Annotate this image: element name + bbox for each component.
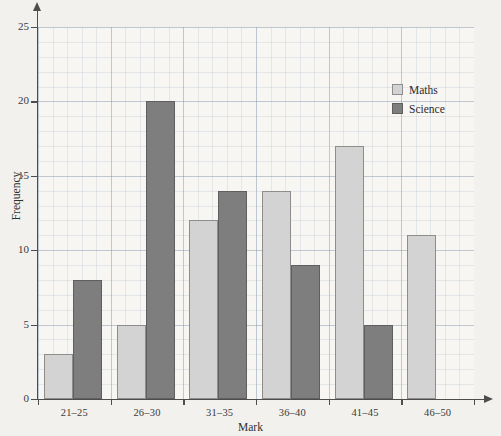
bar-science-36-40	[291, 265, 320, 399]
x-tick-mark	[183, 399, 184, 405]
x-tick-mark	[401, 399, 402, 405]
bar-science-31-35	[218, 191, 247, 399]
x-tick-mark	[474, 399, 475, 405]
x-category-label: 41–45	[329, 407, 401, 418]
y-axis-arrow-icon	[33, 2, 41, 11]
chart-legend: Maths Science	[392, 80, 445, 118]
y-tick-label: 25	[3, 21, 29, 32]
x-axis-line	[37, 399, 489, 400]
y-tick-mark	[31, 27, 38, 28]
y-tick-label: 20	[3, 95, 29, 106]
science-swatch-icon	[392, 103, 403, 114]
y-tick-label: 5	[3, 319, 29, 330]
legend-label-maths: Maths	[409, 84, 438, 96]
x-tick-mark	[329, 399, 330, 405]
y-tick-label: 0	[3, 393, 29, 404]
bar-science-41-45	[364, 325, 393, 399]
legend-item-science: Science	[392, 99, 445, 118]
y-tick-mark	[31, 399, 38, 400]
x-category-label: 31–35	[184, 407, 256, 418]
x-tick-mark	[38, 399, 39, 405]
x-tick-mark	[256, 399, 257, 405]
bar-science-21-25	[73, 280, 102, 399]
x-category-label: 36–40	[256, 407, 328, 418]
bar-maths-26-30	[117, 325, 146, 399]
y-axis-line	[37, 8, 38, 400]
y-tick-mark	[31, 101, 38, 102]
y-tick-mark	[31, 176, 38, 177]
y-axis-title: Frequency	[10, 141, 22, 251]
x-category-label: 46–50	[402, 407, 474, 418]
legend-item-maths: Maths	[392, 80, 445, 99]
bar-maths-21-25	[44, 354, 73, 399]
x-axis-title: Mark	[0, 421, 501, 433]
bar-maths-46-50	[407, 235, 436, 399]
y-tick-mark	[31, 250, 38, 251]
x-category-label: 26–30	[111, 407, 183, 418]
x-tick-mark	[111, 399, 112, 405]
maths-swatch-icon	[392, 84, 403, 95]
x-category-label: 21–25	[38, 407, 110, 418]
bar-maths-41-45	[335, 146, 364, 399]
chart-figure: 0510152025 21–2526–3031–3536–4041–4546–5…	[0, 0, 501, 436]
bar-science-26-30	[146, 101, 175, 399]
x-axis-arrow-icon	[484, 395, 493, 403]
legend-label-science: Science	[409, 103, 445, 115]
y-tick-mark	[31, 325, 38, 326]
bar-maths-31-35	[189, 220, 218, 399]
bar-maths-36-40	[262, 191, 291, 399]
